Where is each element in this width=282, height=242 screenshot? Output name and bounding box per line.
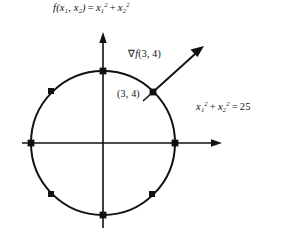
objective-equals: = [86, 2, 96, 13]
constraint-equation-label: x12+x22=25 [196, 101, 251, 112]
objective-function-label: f(x1, x2)=x12+x22 [53, 2, 130, 13]
marker-bottom-intercept [100, 212, 107, 219]
gradient-point: (3, 4) [138, 48, 161, 59]
marker-lower-right-point [149, 191, 155, 197]
constraint-value: 25 [240, 101, 251, 112]
objective-plus: + [108, 2, 118, 13]
objective-args-mid: , x [68, 2, 79, 13]
constraint-plus: + [208, 101, 218, 112]
marker-lower-left-point [48, 191, 54, 197]
marker-right-intercept [172, 140, 179, 147]
constraint-term1-sub: 1 [201, 106, 204, 113]
marker-left-intercept [28, 140, 35, 147]
point-coordinate-label: (3, 4) [117, 88, 140, 99]
objective-term2-sub: 2 [123, 7, 126, 14]
objective-term1-sub: 1 [101, 7, 104, 14]
y-axis-arrowhead [99, 32, 106, 43]
constraint-equals: = [230, 101, 240, 112]
objective-args-open: (x [56, 2, 65, 13]
gradient-vector-label: ∇f(3, 4) [128, 48, 161, 59]
marker-top-intercept [100, 68, 107, 75]
marker-point-3-4 [150, 89, 157, 96]
objective-term2-sup: 2 [126, 1, 129, 8]
marker-upper-left-point [48, 88, 54, 94]
constraint-term2-sub: 2 [223, 106, 226, 113]
x-axis-arrowhead [211, 139, 222, 146]
gradient-circle-diagram [0, 0, 282, 242]
